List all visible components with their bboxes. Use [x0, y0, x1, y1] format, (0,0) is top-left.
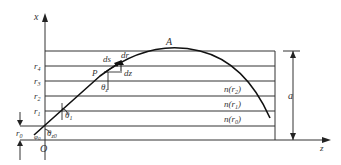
z-axis — [20, 137, 331, 143]
phi0-label: φ0 — [34, 133, 41, 141]
label-n-r1: n(r1) — [224, 99, 241, 110]
ds-vector — [104, 60, 124, 90]
dimension-a-label: a — [288, 90, 293, 101]
label-r3: r3 — [34, 76, 41, 87]
label-r2: r2 — [34, 91, 41, 102]
point-P-label: P — [91, 68, 98, 78]
dz-label: dz — [124, 68, 133, 78]
layer-boundaries — [20, 51, 275, 140]
label-r4: r4 — [34, 61, 41, 72]
layer-labels: r4 r3 r2 r1 r0 — [16, 61, 41, 139]
label-n-r0: n(r0) — [224, 114, 241, 125]
apex-A-label: A — [165, 36, 173, 47]
x-axis-label: x — [33, 11, 39, 22]
origin-label: O — [40, 143, 47, 154]
ds-label: ds — [103, 54, 112, 64]
theta-z0-label: θz0 — [47, 128, 57, 139]
ray-path-diagram: x z r4 r3 r2 r1 r0 O — [0, 0, 341, 165]
label-n-r2: n(r2) — [224, 84, 241, 95]
z-axis-label: z — [319, 143, 324, 153]
dr-label: dr — [121, 50, 130, 60]
refractive-index-labels: n(r2) n(r1) n(r0) — [224, 84, 241, 125]
theta-z-label: θz — [101, 82, 108, 93]
label-r1: r1 — [34, 106, 41, 117]
theta1-label: θ1 — [65, 110, 72, 121]
label-r0: r0 — [16, 128, 23, 139]
